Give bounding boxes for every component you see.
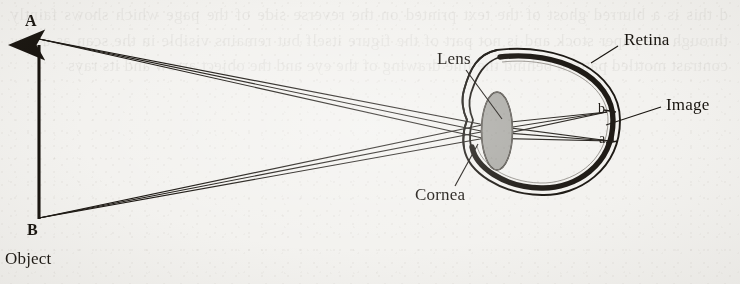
- label-cornea: Cornea: [415, 185, 465, 205]
- label-lens: Lens: [437, 49, 471, 69]
- label-image-point-b: b: [598, 101, 605, 117]
- figure-canvas: d this is a blurred ghost of the text pr…: [0, 0, 740, 284]
- label-object: Object: [5, 249, 52, 269]
- label-object-point-b: B: [27, 221, 38, 239]
- label-image: Image: [666, 95, 709, 115]
- crystalline-lens: [482, 92, 513, 170]
- leader-line-retina: [591, 46, 618, 63]
- label-image-point-a: a: [599, 131, 605, 147]
- leader-line-cornea: [455, 144, 478, 186]
- label-retina: Retina: [624, 30, 670, 50]
- ray-bundle-from-B: [39, 112, 607, 218]
- label-object-point-a: A: [25, 12, 37, 30]
